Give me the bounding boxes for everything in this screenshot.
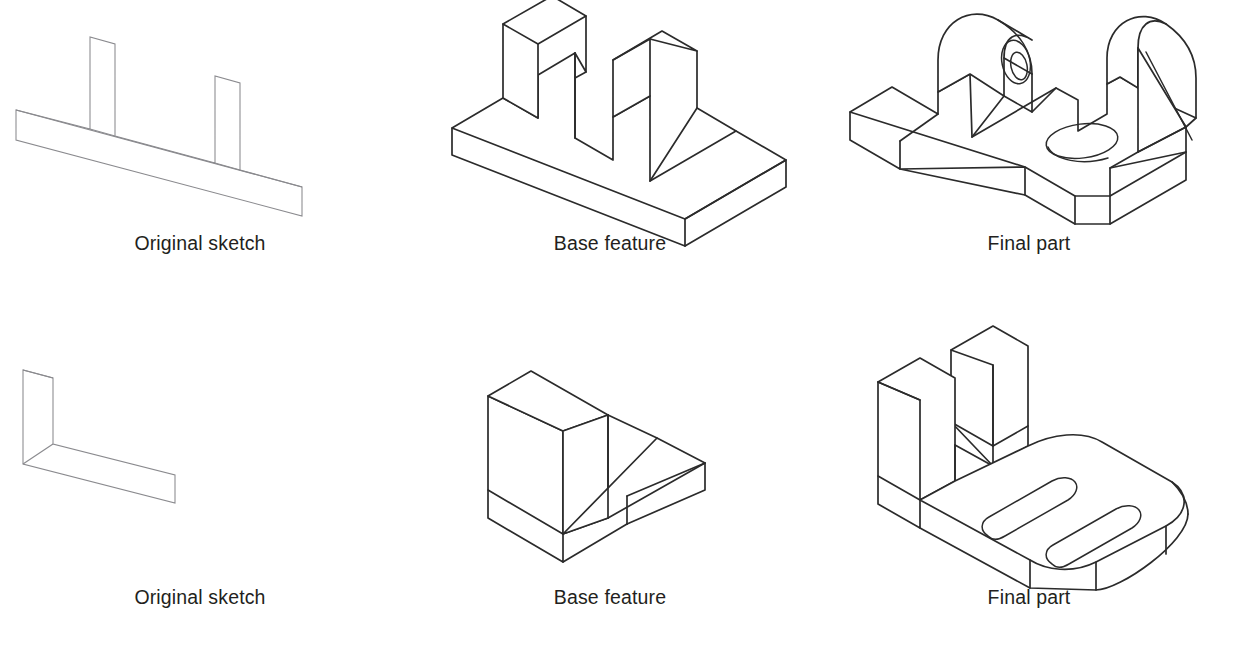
drawing-l-bracket-profile-sketch — [0, 318, 400, 558]
sketch-profile-outline — [16, 37, 302, 216]
final-part-solid — [850, 14, 1196, 224]
figure-row-bottom: Original sketch — [0, 318, 1238, 644]
drawing-l-bracket-final — [820, 318, 1238, 558]
drawing-ribbed-plate-profile-sketch — [0, 0, 400, 240]
l-bracket-final-solid — [878, 326, 1188, 590]
caption-bottom-original-sketch: Original sketch — [0, 586, 400, 609]
drawing-l-bracket-extrusion — [400, 318, 820, 558]
l-bracket-solid — [488, 371, 705, 562]
base-plate-solid — [452, 0, 786, 246]
sketch-profile-outline — [23, 370, 175, 503]
caption-top-final-part: Final part — [820, 232, 1238, 255]
drawing-ribbed-plate-extrusion — [400, 0, 820, 240]
wall-prong-rear — [951, 326, 1028, 466]
cell-top-original-sketch: Original sketch — [0, 0, 400, 326]
cad-feature-progression-figure: Original sketch — [0, 0, 1238, 653]
cell-bottom-base-feature: Base feature — [400, 318, 820, 644]
figure-row-top: Original sketch — [0, 0, 1238, 326]
cell-top-base-feature: Base feature — [400, 0, 820, 326]
caption-top-base-feature: Base feature — [400, 232, 820, 255]
wall-prong-front — [878, 358, 955, 500]
cell-bottom-final-part: Final part — [820, 318, 1238, 644]
caption-top-original-sketch: Original sketch — [0, 232, 400, 255]
caption-bottom-final-part: Final part — [820, 586, 1238, 609]
caption-bottom-base-feature: Base feature — [400, 586, 820, 609]
cell-bottom-original-sketch: Original sketch — [0, 318, 400, 644]
drawing-ribbed-plate-final — [820, 0, 1238, 240]
cell-top-final-part: Final part — [820, 0, 1238, 326]
